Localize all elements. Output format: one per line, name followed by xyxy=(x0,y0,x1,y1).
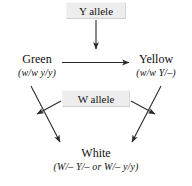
phenotype-green: Green (w/w y/y) xyxy=(0,52,74,79)
epistasis-pathway-diagram: Y allele W allele Green (w/w y/y) Yellow… xyxy=(0,0,192,186)
arrow-green-to-white xyxy=(31,86,60,142)
white-name: White xyxy=(16,146,176,160)
phenotype-yellow: Yellow (w/w Y/–) xyxy=(120,52,192,79)
white-genotype: (W/– Y/– or W/– y/y) xyxy=(16,160,176,173)
arrow-w-allele-down-left xyxy=(37,101,61,114)
green-genotype: (w/w y/y) xyxy=(0,66,74,79)
green-name: Green xyxy=(0,52,74,66)
arrow-yellow-to-white xyxy=(132,86,161,142)
yellow-genotype: (w/w Y/–) xyxy=(120,66,192,79)
yellow-name: Yellow xyxy=(120,52,192,66)
phenotype-white: White (W/– Y/– or W/– y/y) xyxy=(16,146,176,173)
w-allele-box: W allele xyxy=(62,90,130,107)
w-allele-label: W allele xyxy=(78,93,115,105)
y-allele-box: Y allele xyxy=(66,2,126,19)
arrow-w-allele-down-right xyxy=(131,101,155,114)
y-allele-label: Y allele xyxy=(79,5,113,17)
